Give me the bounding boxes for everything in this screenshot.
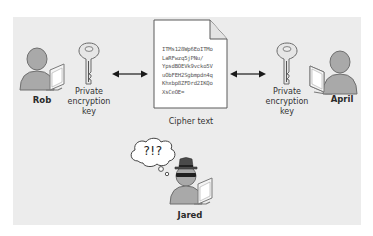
key-left-icon (78, 42, 100, 86)
key-right-label-line3: key (262, 107, 312, 117)
person-april-icon (306, 48, 362, 98)
double-arrow-left-icon (112, 69, 148, 79)
key-left-label: Private encryption key (64, 87, 114, 117)
cipher-line: XsCeOE= (162, 88, 224, 97)
key-left-label-line2: encryption (64, 97, 114, 107)
person-jared-icon (168, 156, 218, 208)
key-right-icon (276, 42, 298, 86)
thought-bubble-text: ?!? (136, 144, 170, 158)
key-left-label-line3: key (64, 107, 114, 117)
key-left-label-line1: Private (64, 87, 114, 97)
person-jared-name: Jared (170, 210, 210, 220)
cipher-text-content: ITMs128Wp6EoITMo LaRFwzq5jPNu/ YpsdBOEVk… (162, 45, 224, 96)
person-april-name: April (322, 94, 362, 104)
cipher-line: ITMs128Wp6EoITMo (162, 45, 224, 54)
double-arrow-right-icon (230, 69, 266, 79)
key-right-label: Private encryption key (262, 87, 312, 117)
cipher-line: uObFEH2Sgbmpdn4q (162, 71, 224, 80)
cipher-line: Khxbp8ZFDrd2IKQo (162, 79, 224, 88)
cipher-line: YpsdBOEVk9vcko5V (162, 62, 224, 71)
cipher-text-caption: Cipher text (160, 117, 222, 127)
cipher-line: LaRFwzq5jPNu/ (162, 54, 224, 63)
key-right-label-line1: Private (262, 87, 312, 97)
person-rob-name: Rob (22, 95, 62, 105)
key-right-label-line2: encryption (262, 97, 312, 107)
